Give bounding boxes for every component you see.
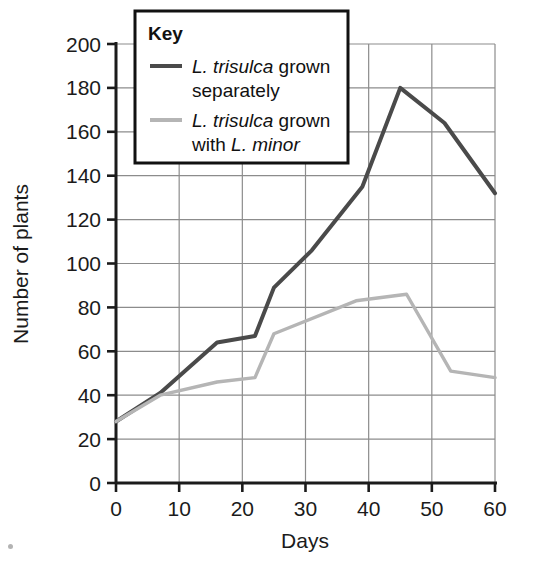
chart-page: 0102030405060 02040608010012014016018020… — [0, 0, 534, 579]
y-tick-label-100: 100 — [66, 252, 101, 275]
legend-label-with-minor-line2: with L. minor — [191, 134, 300, 155]
legend-label-separately-line1: L. trisulca grown — [192, 56, 330, 77]
y-axis-title: Number of plants — [9, 184, 32, 344]
y-tick-label-80: 80 — [78, 296, 101, 319]
y-tick-label-0: 0 — [89, 472, 101, 495]
legend-label-with-minor-line1: L. trisulca grown — [192, 110, 330, 131]
y-tick-label-120: 120 — [66, 208, 101, 231]
y-tick-label-20: 20 — [78, 428, 101, 451]
y-tick-label-140: 140 — [66, 164, 101, 187]
legend-label-separately-line2: separately — [192, 80, 280, 101]
y-tick-label-60: 60 — [78, 340, 101, 363]
x-tick-label-20: 20 — [231, 497, 254, 520]
x-tick-label-60: 60 — [483, 497, 506, 520]
x-axis-title: Days — [281, 529, 329, 552]
y-tick-label-160: 160 — [66, 120, 101, 143]
legend-title: Key — [148, 23, 183, 44]
y-tick-label-40: 40 — [78, 384, 101, 407]
x-tick-label-0: 0 — [110, 497, 122, 520]
x-tick-label-40: 40 — [357, 497, 380, 520]
x-tick-label-10: 10 — [167, 497, 190, 520]
x-tick-label-50: 50 — [420, 497, 443, 520]
y-tick-label-200: 200 — [66, 33, 101, 56]
line-chart: 0102030405060 02040608010012014016018020… — [0, 0, 534, 579]
scan-artifact-dot — [8, 544, 13, 549]
legend: Key L. trisulca grown separately L. tris… — [135, 11, 348, 163]
x-tick-label-30: 30 — [294, 497, 317, 520]
y-tick-label-180: 180 — [66, 76, 101, 99]
